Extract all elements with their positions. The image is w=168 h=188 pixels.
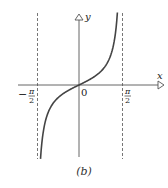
neg-half-pi-numerator: π — [28, 87, 35, 96]
y-axis-label: y — [84, 11, 91, 22]
x-axis-arrow-icon — [158, 81, 164, 89]
tangent-graph: y x 0 − π 2 π 2 — [0, 0, 168, 188]
half-pi-numerator: π — [124, 87, 131, 96]
origin-label: 0 — [81, 87, 87, 98]
neg-half-pi-denominator: 2 — [29, 96, 34, 105]
figure-caption: (b) — [0, 165, 168, 178]
x-axis-label: x — [157, 70, 163, 81]
y-axis-arrow-icon — [75, 14, 83, 20]
half-pi-denominator: 2 — [125, 96, 130, 105]
neg-sign: − — [18, 88, 27, 101]
